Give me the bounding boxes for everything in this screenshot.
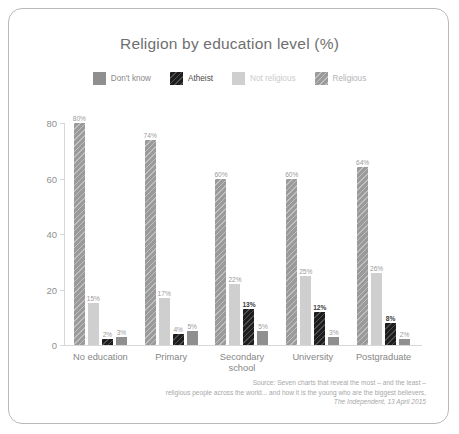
- bar-value-label: 5%: [187, 323, 197, 330]
- y-axis-tick-mark: [60, 234, 64, 235]
- bar-wrapper: 22%: [229, 123, 240, 345]
- bar-value-label: 2%: [400, 331, 410, 338]
- bar-wrapper: 2%: [102, 123, 113, 345]
- x-axis-category-line: school: [207, 363, 278, 374]
- bar-religious[interactable]: 60%: [286, 179, 297, 346]
- bar-dontknow[interactable]: 3%: [328, 337, 339, 345]
- bar-wrapper: 80%: [74, 123, 85, 345]
- y-axis-tick-label: 0: [21, 340, 57, 351]
- bar-notreligious[interactable]: 15%: [88, 303, 99, 345]
- bar-wrapper: 26%: [371, 123, 382, 345]
- bar-group: 80%15%2%3%No education: [65, 123, 136, 345]
- bar-value-label: 80%: [73, 115, 86, 122]
- legend-swatch-notreligious-icon: [232, 72, 245, 85]
- y-axis-tick-mark: [60, 345, 64, 346]
- bar-group: 74%17%4%5%Primary: [136, 123, 207, 345]
- bar-religious[interactable]: 74%: [145, 140, 156, 345]
- x-axis-line: [64, 345, 422, 346]
- bar-atheist[interactable]: 13%: [243, 309, 254, 345]
- bar-wrapper: 13%: [243, 123, 254, 345]
- chart-title: Religion by education level (%): [9, 35, 450, 53]
- bar-atheist[interactable]: 12%: [314, 312, 325, 345]
- bar-value-label: 22%: [228, 276, 241, 283]
- bar-value-label: 26%: [370, 265, 383, 272]
- bar-wrapper: 3%: [328, 123, 339, 345]
- bar-notreligious[interactable]: 25%: [300, 276, 311, 345]
- y-axis-tick-mark: [60, 123, 64, 124]
- chart-legend: Don't knowAtheistNot religiousReligious: [9, 72, 450, 85]
- bar-religious[interactable]: 60%: [215, 179, 226, 346]
- x-axis-category-label: Postgraduate: [348, 352, 419, 363]
- bar-value-label: 5%: [258, 323, 268, 330]
- bar-value-label: 60%: [214, 171, 227, 178]
- bar-atheist[interactable]: 8%: [385, 323, 396, 345]
- bar-groups: 80%15%2%3%No education74%17%4%5%Primary6…: [65, 123, 419, 345]
- bar-dontknow[interactable]: 2%: [399, 339, 410, 345]
- legend-item-notreligious[interactable]: Not religious: [232, 72, 296, 85]
- y-axis-tick-label: 40: [21, 229, 57, 240]
- bar-atheist[interactable]: 4%: [173, 334, 184, 345]
- bar-value-label: 17%: [158, 290, 171, 297]
- legend-label: Religious: [333, 74, 367, 83]
- bar-group: 64%26%8%2%Postgraduate: [348, 123, 419, 345]
- bar-value-label: 8%: [386, 315, 396, 322]
- bar-atheist[interactable]: 2%: [102, 339, 113, 345]
- x-axis-category-line: University: [277, 352, 348, 363]
- bar-notreligious[interactable]: 26%: [371, 273, 382, 345]
- source-line-3: The Independent, 13 April 2015: [96, 397, 426, 406]
- source-note: Source: Seven charts that reveal the mos…: [96, 378, 426, 406]
- bar-wrapper: 60%: [215, 123, 226, 345]
- bar-dontknow[interactable]: 3%: [116, 337, 127, 345]
- bar-group: 60%22%13%5%Secondaryschool: [207, 123, 278, 345]
- bar-notreligious[interactable]: 22%: [229, 284, 240, 345]
- bar-value-label: 25%: [299, 268, 312, 275]
- x-axis-category-line: Primary: [136, 352, 207, 363]
- legend-label: Not religious: [250, 74, 296, 83]
- legend-label: Don't know: [111, 74, 151, 83]
- source-line-1: Source: Seven charts that reveal the mos…: [96, 378, 426, 387]
- bar-wrapper: 25%: [300, 123, 311, 345]
- bar-wrapper: 60%: [286, 123, 297, 345]
- legend-label: Atheist: [188, 74, 213, 83]
- bar-wrapper: 2%: [399, 123, 410, 345]
- bar-wrapper: 17%: [159, 123, 170, 345]
- chart-card: Religion by education level (%) Don't kn…: [8, 8, 449, 424]
- legend-item-dontknow[interactable]: Don't know: [93, 72, 151, 85]
- x-axis-category-line: Postgraduate: [348, 352, 419, 363]
- y-axis-tick-label: 80: [21, 118, 57, 129]
- x-axis-category-line: Secondary: [207, 352, 278, 363]
- bar-religious[interactable]: 80%: [74, 123, 85, 345]
- bar-notreligious[interactable]: 17%: [159, 298, 170, 345]
- legend-swatch-religious-icon: [315, 72, 328, 85]
- bar-value-label: 3%: [117, 329, 127, 336]
- bar-value-label: 15%: [87, 295, 100, 302]
- y-axis-tick-label: 60: [21, 173, 57, 184]
- legend-swatch-dontknow-icon: [93, 72, 106, 85]
- bar-value-label: 2%: [103, 331, 113, 338]
- bar-wrapper: 12%: [314, 123, 325, 345]
- bar-dontknow[interactable]: 5%: [187, 331, 198, 345]
- legend-swatch-atheist-icon: [170, 72, 183, 85]
- bar-value-label: 4%: [173, 326, 183, 333]
- bar-dontknow[interactable]: 5%: [257, 331, 268, 345]
- plot-frame: 020406080 80%15%2%3%No education74%17%4%…: [65, 123, 419, 345]
- y-axis-tick-mark: [60, 290, 64, 291]
- bar-value-label: 64%: [356, 159, 369, 166]
- bar-value-label: 60%: [285, 171, 298, 178]
- bar-wrapper: 8%: [385, 123, 396, 345]
- source-line-2: religious people across the world... and…: [96, 388, 426, 397]
- bar-wrapper: 15%: [88, 123, 99, 345]
- bar-value-label: 74%: [144, 132, 157, 139]
- bar-religious[interactable]: 64%: [357, 167, 368, 345]
- x-axis-category-label: No education: [65, 352, 136, 363]
- bar-value-label: 13%: [242, 301, 255, 308]
- x-axis-category-label: Primary: [136, 352, 207, 363]
- bar-group: 60%25%12%3%University: [277, 123, 348, 345]
- legend-item-atheist[interactable]: Atheist: [170, 72, 213, 85]
- bar-wrapper: 3%: [116, 123, 127, 345]
- bar-value-label: 12%: [313, 304, 326, 311]
- y-axis-tick-label: 20: [21, 284, 57, 295]
- legend-item-religious[interactable]: Religious: [315, 72, 367, 85]
- bar-wrapper: 64%: [357, 123, 368, 345]
- bar-wrapper: 5%: [187, 123, 198, 345]
